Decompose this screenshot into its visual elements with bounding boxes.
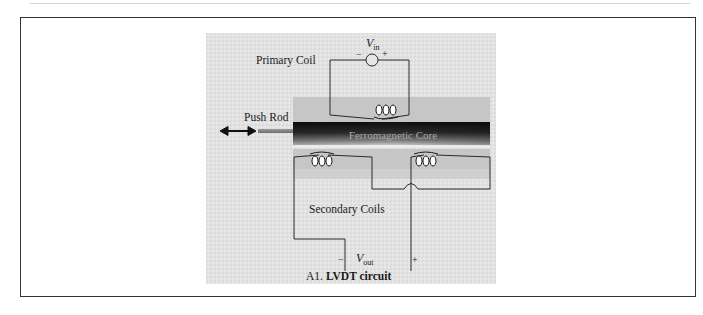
vout-minus: − [338,254,344,265]
push-rod [258,129,293,133]
top-rule [30,3,690,4]
primary-coil-label: Primary Coil [256,54,316,67]
ac-source-icon [366,54,378,66]
lvdt-figure: Ferromagnetic Core Push Rod Primary Coil… [206,33,496,284]
secondary-coils-label: Secondary Coils [309,203,385,216]
vin-plus: + [382,48,388,59]
push-rod-label: Push Rod [244,111,289,123]
vout-plus: + [412,254,418,265]
figure-caption: A1.LVDT circuit [306,270,391,282]
vin-minus: − [356,49,362,60]
core-label: Ferromagnetic Core [349,129,437,141]
